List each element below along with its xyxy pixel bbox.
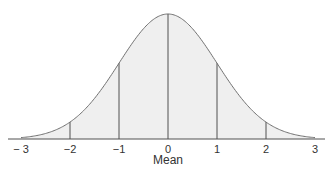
x-tick-label: 1 bbox=[214, 143, 220, 155]
x-tick-label: 2 bbox=[263, 143, 269, 155]
x-tick-label: −1 bbox=[113, 143, 126, 155]
normal-distribution-chart: − 3−2−10123 Mean bbox=[0, 0, 333, 174]
x-tick-label: − 3 bbox=[13, 143, 29, 155]
x-tick-label: 3 bbox=[312, 143, 318, 155]
x-tick-label: −2 bbox=[64, 143, 77, 155]
x-axis-title: Mean bbox=[153, 153, 183, 167]
